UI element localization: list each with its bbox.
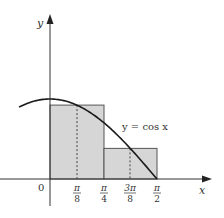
x-axis-label: x	[199, 184, 206, 197]
tick-label-3pi8: 3π 8	[124, 183, 137, 204]
tick-label-pi4: π 4	[100, 183, 108, 204]
tick-label-pi2: π 2	[153, 183, 161, 204]
function-label: y = cos x	[121, 121, 168, 132]
origin-label: 0	[38, 182, 44, 193]
x-axis-arrow-icon	[202, 176, 212, 183]
svg-text:8: 8	[127, 194, 133, 204]
svg-text:4: 4	[101, 194, 107, 204]
svg-text:3π: 3π	[124, 183, 137, 193]
svg-text:8: 8	[74, 194, 80, 204]
svg-text:π: π	[100, 183, 108, 193]
svg-text:π: π	[153, 183, 161, 193]
svg-text:π: π	[73, 183, 81, 193]
y-axis-arrow-icon	[47, 14, 54, 24]
svg-text:2: 2	[154, 194, 160, 204]
tick-label-pi8: π 8	[73, 183, 81, 204]
cosine-midpoint-diagram: y x 0 y = cos x π 8 π 4 3π 8 π 2	[0, 0, 224, 218]
y-axis-label: y	[36, 17, 44, 30]
